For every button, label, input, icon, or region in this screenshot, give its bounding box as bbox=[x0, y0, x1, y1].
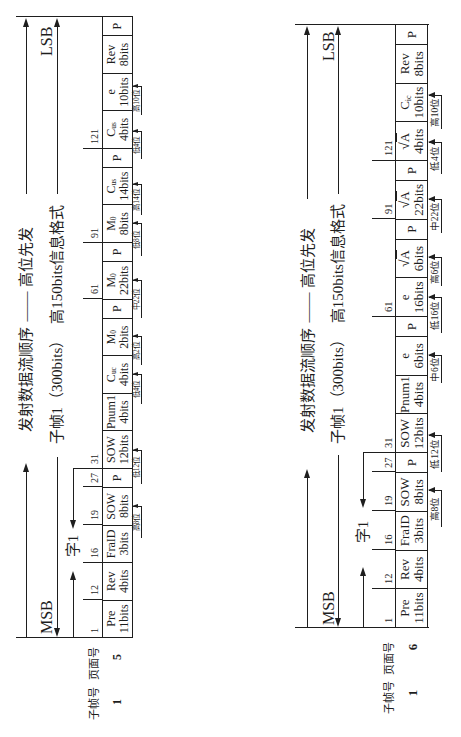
transmission-order-label: 发射数据流顺序 —— 高位先发 bbox=[299, 199, 318, 461]
dash: —— bbox=[299, 293, 318, 323]
bit-tick bbox=[83, 242, 102, 243]
bit-range-annotation: 低8位 bbox=[133, 223, 142, 256]
arrow-up-icon bbox=[132, 372, 138, 376]
msb-label: MSB bbox=[321, 591, 337, 625]
cell-fraid: FraID 3bits bbox=[103, 525, 132, 562]
field-name: M0 bbox=[105, 330, 118, 344]
cell-rev: Rev 4bits bbox=[396, 550, 427, 589]
word-bracket-line bbox=[363, 453, 364, 501]
cell-fraid: FraID 3bits bbox=[396, 511, 427, 550]
bit-range-annotation: 高2位 bbox=[133, 336, 142, 365]
bit-number: 19 bbox=[384, 496, 394, 507]
bit-range-label: 高2位 bbox=[133, 342, 141, 360]
sqrt-icon: √ bbox=[397, 259, 412, 267]
field-name: P bbox=[405, 226, 419, 233]
field-name: Pnum1 bbox=[398, 376, 412, 413]
bit-range-annotation: 低4位 bbox=[133, 374, 142, 404]
arrow-right-icon bbox=[23, 18, 29, 27]
cell-parity: P bbox=[103, 299, 132, 318]
field-name: e bbox=[398, 294, 412, 300]
bit-range-annotation: 中22位 bbox=[429, 199, 442, 233]
subframe-span-line bbox=[57, 457, 58, 631]
subframe-span-label: 子帧1（300bits） 高150bits信息格式 bbox=[329, 195, 348, 453]
cell-rev-tail: Rev 8bits bbox=[396, 44, 427, 83]
arrow-right-icon bbox=[304, 469, 310, 478]
field-bits: 4bits bbox=[118, 363, 131, 386]
field-name: Cus bbox=[105, 179, 118, 194]
bit-range-label: 高6位 bbox=[430, 260, 441, 285]
bit-tick bbox=[83, 599, 102, 600]
field-symbol: C bbox=[104, 129, 118, 137]
msb-first-text: 高位先发 bbox=[17, 227, 36, 287]
field-bits: 12bits bbox=[412, 417, 426, 449]
arrow-right-icon bbox=[304, 26, 310, 35]
arrow-up-icon bbox=[132, 504, 138, 508]
field-bits: 4bits bbox=[118, 570, 131, 593]
cell-pre: Pre 11bits bbox=[103, 600, 132, 637]
bit-tick bbox=[372, 510, 395, 511]
page-number-header: 页面号 bbox=[383, 639, 395, 677]
figure: 发射数据流顺序 —— 高位先发 子帧1（300bits） 高150bits信息格… bbox=[0, 0, 461, 737]
field-name: e bbox=[398, 353, 412, 359]
cell-e-high: e 10bits bbox=[103, 73, 132, 110]
bit-tick bbox=[372, 471, 395, 472]
field-table: Pre 11bits Rev 4bits FraID 3bits SOW 8bi… bbox=[395, 24, 428, 628]
bit-number: 31 bbox=[90, 454, 100, 464]
cell-parity: P bbox=[396, 316, 427, 336]
cell-sow-high: SOW 8bits bbox=[396, 472, 427, 511]
cell-parity: P bbox=[103, 468, 132, 487]
bit-number: 31 bbox=[384, 438, 394, 449]
field-name: P bbox=[111, 154, 124, 161]
bit-range-annotation: 高14位 bbox=[133, 184, 142, 215]
field-symbol: C bbox=[104, 185, 118, 193]
field-name: P bbox=[111, 305, 124, 312]
field-name: M0 bbox=[105, 216, 118, 230]
field-name: P bbox=[111, 23, 124, 30]
word-label: 字1 bbox=[65, 527, 82, 565]
bit-tick bbox=[73, 468, 102, 469]
dash: —— bbox=[17, 292, 36, 322]
bit-number: 61 bbox=[90, 284, 100, 294]
cell-m0-low: M0 8bits bbox=[103, 204, 132, 241]
lsb-label: LSB bbox=[321, 32, 337, 61]
bit-number: 91 bbox=[384, 204, 394, 215]
field-bits: 6bits bbox=[412, 343, 426, 368]
field-bits: 3bits bbox=[118, 532, 131, 555]
subframe-number-value: 1 bbox=[407, 688, 419, 698]
arrow-up-icon bbox=[132, 334, 138, 338]
field-bits: 10bits bbox=[412, 87, 426, 119]
field-symbol: M bbox=[104, 334, 118, 345]
bit-range-label: 低4位 bbox=[430, 146, 441, 171]
bit-range-label: 高8位 bbox=[133, 514, 141, 532]
subframe-span-line bbox=[338, 34, 339, 194]
bit-number: 19 bbox=[90, 510, 100, 520]
rotated-canvas: 发射数据流顺序 —— 高位先发 子帧1（300bits） 高150bits信息格… bbox=[0, 0, 461, 737]
bit-range-annotation: 低12位 bbox=[133, 450, 142, 484]
bit-range-annotation: 高10位 bbox=[133, 86, 142, 115]
field-bits: 16bits bbox=[412, 281, 426, 313]
field-name: Cus bbox=[105, 122, 118, 137]
cell-parity: P bbox=[396, 25, 427, 44]
bit-range-label: 低4位 bbox=[133, 137, 141, 155]
bit-range-label: 低12位 bbox=[430, 439, 441, 469]
cell-cic-high: Cic 10bits bbox=[396, 83, 427, 122]
bit-tick bbox=[83, 562, 102, 563]
cell-rev-tail: Rev 8bits bbox=[103, 35, 132, 72]
field-bits: 3bits bbox=[412, 518, 426, 543]
arrow-up-icon bbox=[428, 254, 435, 260]
field-name: Rev bbox=[105, 572, 118, 591]
bit-number: 61 bbox=[384, 302, 394, 313]
bit-number: 16 bbox=[90, 548, 100, 558]
cell-cus-high: Cus 14bits bbox=[103, 167, 132, 204]
arrow-up-icon bbox=[132, 448, 138, 452]
field-name: √A bbox=[398, 191, 412, 208]
bit-range-label: 低4位 bbox=[133, 381, 141, 399]
field-bits: 22bits bbox=[118, 266, 131, 295]
page-number-value: 6 bbox=[407, 642, 419, 652]
arrow-up-icon bbox=[132, 221, 138, 225]
subframe-size-text: 子帧1（300bits） bbox=[48, 333, 67, 445]
bit-range-annotation: 高8位 bbox=[429, 490, 442, 527]
bit-range-label: 低16位 bbox=[430, 301, 441, 331]
arrow-right-icon bbox=[70, 571, 76, 580]
arrow-up-icon bbox=[428, 139, 435, 145]
